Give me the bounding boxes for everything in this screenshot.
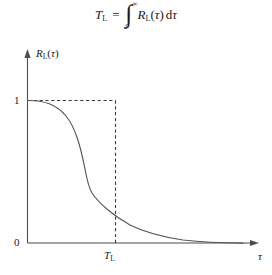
figure-caption xyxy=(0,266,272,275)
equation-lhs-subscript: L xyxy=(102,14,107,23)
plot-area: RL(τ) τ 1 0 TL xyxy=(0,45,272,260)
plot-svg xyxy=(0,45,272,260)
y-axis-title-paren-close: ) xyxy=(55,47,59,59)
x-tick-label-tl: TL xyxy=(104,250,115,262)
autocorrelation-curve xyxy=(28,101,243,244)
x-axis-title: τ xyxy=(258,251,262,262)
equation-differential-tau: τ xyxy=(172,7,177,22)
equation-integrand-symbol: R xyxy=(138,7,146,22)
integral-lower-limit: 0 xyxy=(126,23,130,30)
figure-container: TL=∞∫0RL(τ)dτ RL(τ) τ 1 0 TL xyxy=(0,0,272,275)
equation-display: TL=∞∫0RL(τ)dτ xyxy=(0,4,272,28)
integral-upper-limit: ∞ xyxy=(133,1,138,8)
equation-paren-close: ) xyxy=(159,7,163,22)
x-tick-label-subscript: L xyxy=(110,254,115,263)
y-tick-label-one: 1 xyxy=(14,95,20,106)
x-axis-arrowhead-icon xyxy=(250,240,259,246)
y-axis-title-symbol: R xyxy=(36,47,43,59)
y-axis-arrowhead-icon xyxy=(24,49,30,58)
y-tick-label-zero: 0 xyxy=(14,237,20,248)
equation-equals-sign: = xyxy=(112,7,119,22)
integral-group: ∞∫0 xyxy=(125,4,138,28)
y-axis-title: RL(τ) xyxy=(36,48,59,60)
